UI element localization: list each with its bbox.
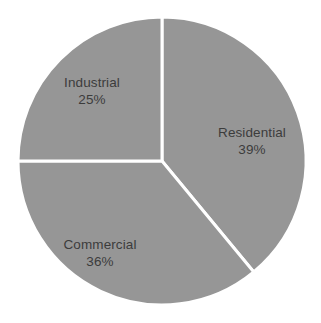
pie-label-industrial: Industrial 25% xyxy=(64,74,120,109)
pie-label-residential-name: Residential xyxy=(218,124,286,141)
pie-chart-canvas xyxy=(0,0,321,323)
pie-label-commercial-value: 36% xyxy=(63,253,136,270)
pie-chart-figure: Residential 39% Commercial 36% Industria… xyxy=(0,0,321,323)
pie-label-commercial-name: Commercial xyxy=(63,236,136,253)
pie-slices xyxy=(18,17,306,305)
pie-label-commercial: Commercial 36% xyxy=(63,236,136,271)
pie-label-industrial-name: Industrial xyxy=(64,74,120,91)
pie-label-industrial-value: 25% xyxy=(64,91,120,108)
pie-label-residential-value: 39% xyxy=(218,141,286,158)
pie-label-residential: Residential 39% xyxy=(218,124,286,159)
